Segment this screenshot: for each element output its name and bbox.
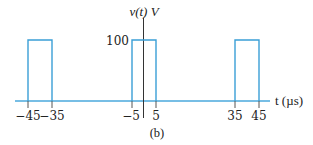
- y-axis-title: v(t) V: [129, 4, 160, 19]
- amplitude-label: 100: [106, 34, 129, 48]
- tick-label: 5: [152, 109, 160, 123]
- tick-label: 45: [251, 109, 266, 123]
- tick-label: −5: [122, 109, 140, 123]
- tick-label: −35: [39, 109, 64, 123]
- pulse-3: [235, 40, 259, 101]
- tick-label: −45: [15, 109, 40, 123]
- x-axis-title: t (µs): [275, 93, 303, 108]
- pulse-train-chart: −45 −35 −5 5 35 45 100 v(t) V t (µs) (b): [0, 0, 313, 145]
- tick-label: 35: [227, 109, 242, 123]
- pulse-1: [28, 40, 52, 101]
- figure-caption: (b): [150, 126, 165, 140]
